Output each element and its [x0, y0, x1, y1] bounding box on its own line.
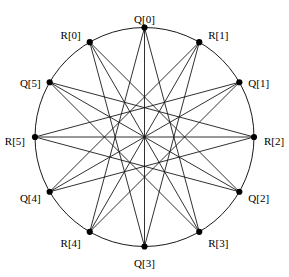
- chord-edge-q5-r3: [50, 82, 200, 232]
- chord-edge-q1-r5: [35, 82, 239, 137]
- node-dot-r3: [196, 229, 202, 235]
- node-dot-r5: [32, 134, 38, 140]
- chord-edge-r0-q3: [90, 42, 145, 246]
- node-dot-r2: [251, 134, 257, 140]
- chord-diagram-figure: Q[0]R[1]Q[1]R[2]Q[2]R[3]Q[3]R[4]Q[4]R[5]…: [0, 0, 289, 277]
- node-dot-r4: [87, 229, 93, 235]
- chord-edge-r4-q1: [90, 82, 240, 232]
- chord-edge-q4-r2: [50, 137, 254, 192]
- chord-edge-r2-q5: [50, 82, 254, 137]
- chord-edges-group: [35, 28, 254, 247]
- node-label-q4: Q[4]: [20, 192, 41, 204]
- chord-edge-q0-r4: [90, 28, 145, 232]
- node-dot-q3: [141, 243, 147, 249]
- node-label-r2: R[2]: [264, 135, 284, 147]
- node-dot-r0: [87, 39, 93, 45]
- chord-edge-q2-r0: [90, 42, 240, 192]
- node-dot-r1: [196, 39, 202, 45]
- node-dot-q0: [141, 24, 147, 30]
- node-label-q3: Q[3]: [134, 257, 155, 269]
- node-label-r0: R[0]: [61, 29, 81, 41]
- node-label-r5: R[5]: [5, 135, 25, 147]
- node-label-q2: Q[2]: [248, 192, 269, 204]
- node-label-q5: Q[5]: [20, 77, 41, 89]
- node-label-q0: Q[0]: [134, 13, 155, 25]
- node-dot-q4: [47, 189, 53, 195]
- chord-edge-q3-r1: [145, 42, 200, 246]
- node-label-r1: R[1]: [208, 29, 228, 41]
- node-label-r4: R[4]: [61, 237, 81, 249]
- chord-edge-q0-r3: [145, 28, 200, 232]
- node-dot-q1: [236, 79, 242, 85]
- chord-edge-r1-q4: [50, 42, 200, 192]
- node-label-r3: R[3]: [208, 237, 228, 249]
- node-label-q1: Q[1]: [248, 77, 269, 89]
- chord-diagram-canvas: Q[0]R[1]Q[1]R[2]Q[2]R[3]Q[3]R[4]Q[4]R[5]…: [0, 0, 289, 277]
- node-dot-q5: [47, 79, 53, 85]
- node-dot-q2: [236, 189, 242, 195]
- chord-edge-r5-q2: [35, 137, 239, 192]
